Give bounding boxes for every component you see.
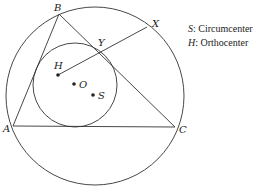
legend: S: Circumcenter H: Orthocenter — [188, 22, 253, 50]
legend-text: : Orthocenter — [195, 37, 248, 48]
side-ab — [13, 14, 59, 126]
legend-text: : Circumcenter — [193, 23, 253, 34]
label-a: A — [2, 123, 10, 134]
label-c: C — [179, 124, 187, 135]
label-h: H — [53, 60, 63, 71]
label-x: X — [151, 18, 160, 29]
label-b: B — [53, 2, 61, 13]
label-s: S — [98, 90, 105, 101]
side-bc — [59, 14, 175, 127]
point-o — [72, 82, 76, 86]
side-ac — [13, 126, 175, 127]
segment-hx — [58, 27, 147, 75]
point-h — [56, 73, 60, 77]
label-y: Y — [98, 37, 106, 48]
label-o: O — [79, 79, 87, 90]
legend-item-circumcenter: S: Circumcenter — [188, 22, 253, 36]
point-s — [91, 93, 95, 97]
legend-item-orthocenter: H: Orthocenter — [188, 36, 253, 50]
outer-circle — [6, 7, 184, 185]
